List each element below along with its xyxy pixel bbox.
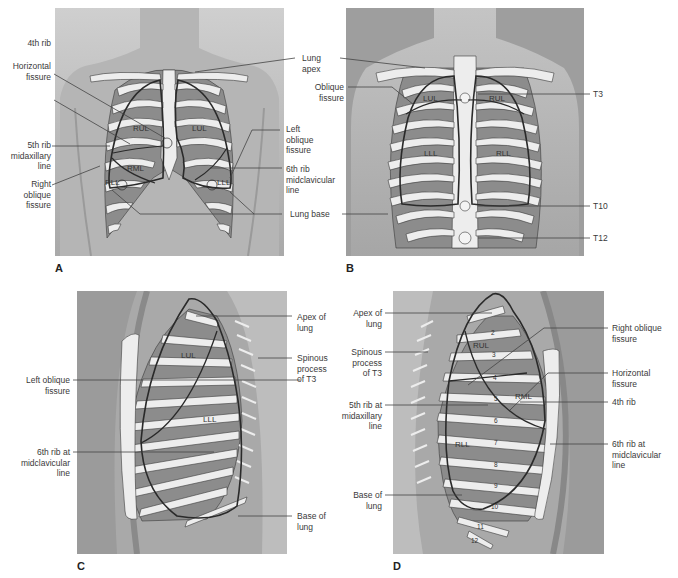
label-t3: T3 [593,89,603,100]
panel-label-b: B [346,262,354,274]
label-lung-base: Lung base [290,209,330,220]
rib-number: 6 [494,417,498,424]
label-6th-rib-midclavicular-line: 6th rib midclavicular line [286,164,335,196]
rib-number: 4 [493,374,497,381]
label-apex-of-lung-d: Apex of lung [330,308,382,329]
rib-number: 12 [471,537,479,544]
rib-number: 11 [477,523,484,530]
lobe-label: RML [515,392,532,401]
panel-label-c: C [77,560,85,572]
label-base-of-lung-d: Base of lung [330,490,382,511]
label-apex-of-lung-c: Apex of lung [297,312,326,333]
label-spinous-process-t3-d: Spinous process of T3 [330,347,382,379]
label-left-oblique-fissure-c: Left oblique fissure [0,375,70,396]
posterior-chest-illustration: LUL RUL LLL RLL [346,8,584,256]
panel-label-a: A [55,262,63,274]
label-right-oblique-fissure: Right oblique fissure [0,179,51,211]
label-oblique-fissure: Oblique fissure [296,82,344,103]
rib-number: 3 [492,351,496,358]
lobe-label: LLL [424,149,438,158]
anterior-chest-illustration: RUL LUL RML RLL LLL [55,8,284,256]
lobe-label: RLL [496,149,511,158]
label-spinous-process-t3-c: Spinous process of T3 [297,353,328,385]
rib-number: 7 [494,439,498,446]
label-5th-rib-midaxillary-d: 5th rib at midaxillary line [330,400,382,432]
panel-b-posterior-view: LUL RUL LLL RLL [346,8,584,256]
lobe-label: RLL [455,440,470,449]
panel-label-d: D [393,560,401,572]
label-5th-rib-midaxillary-line: 5th rib midaxillary line [0,140,51,172]
lobe-label: RUL [133,124,150,133]
lobe-label: LUL [181,351,196,360]
panel-d-right-lateral-view: RUL RML RLL 2 3 4 5 6 7 8 9 10 11 12 [393,291,604,554]
lobe-label: LLL [203,415,217,424]
panel-c-left-lateral-view: LUL LLL [77,291,287,554]
lobe-label: LUL [192,124,207,133]
rib-number: 9 [494,482,498,489]
rib-number: 5 [494,395,498,402]
label-4th-rib: 4th rib [0,38,51,49]
label-right-oblique-fissure-d: Right oblique fissure [612,323,662,344]
label-4th-rib-d: 4th rib [612,397,636,408]
lobe-label: LLL [217,178,231,187]
rib-number: 10 [491,503,499,510]
label-6th-rib-midclavicular-c: 6th rib at midclavicular line [0,447,70,479]
label-horizontal-fissure-d: Horizontal fissure [612,368,650,389]
panel-a-anterior-view: RUL LUL RML RLL LLL [55,8,284,256]
lobe-label: LUL [423,94,438,103]
label-lung-apex: Lung apex [302,53,321,74]
lobe-label: RUL [473,341,490,350]
rib-cage-posterior [376,56,554,248]
lobe-label: RLL [105,178,120,187]
rib-number: 8 [494,461,498,468]
label-t10: T10 [593,201,608,212]
label-left-oblique-fissure: Left oblique fissure [286,124,313,156]
label-horizontal-fissure: Horizontal fissure [0,61,51,82]
right-lateral-chest-illustration: RUL RML RLL 2 3 4 5 6 7 8 9 10 11 12 [393,291,604,554]
lobe-label: RUL [489,94,506,103]
label-t12: T12 [593,233,608,244]
lobe-label: RML [127,164,144,173]
left-lateral-chest-illustration: LUL LLL [77,291,287,554]
rib-number: 2 [491,329,495,336]
label-base-of-lung-c: Base of lung [297,511,326,532]
label-6th-rib-midclavicular-d: 6th rib at midclavicular line [612,439,661,471]
